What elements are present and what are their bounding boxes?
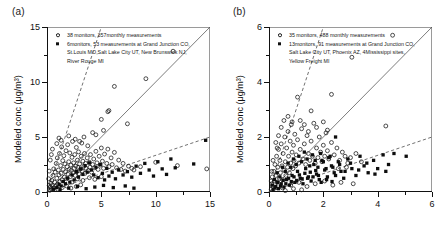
data-point <box>47 177 51 181</box>
data-point <box>304 167 307 170</box>
data-point <box>313 182 317 186</box>
panel-a-label: (a) <box>12 6 25 17</box>
data-point <box>85 156 89 160</box>
data-point <box>89 153 93 157</box>
data-point <box>88 161 91 164</box>
data-point <box>342 177 345 180</box>
data-point <box>73 178 76 181</box>
data-point <box>384 170 387 173</box>
panel-b-y-axis-title: Modeled conc (μg/m³) <box>235 75 245 163</box>
data-point <box>292 187 296 191</box>
data-point <box>106 110 110 114</box>
y-tick-label: 5 <box>35 132 40 142</box>
x-tick-major <box>378 192 379 197</box>
data-point <box>152 174 155 177</box>
data-point <box>68 151 72 155</box>
data-point <box>373 172 376 175</box>
data-point <box>311 153 314 156</box>
data-point <box>286 114 290 118</box>
data-point <box>358 155 361 158</box>
data-point <box>290 180 293 183</box>
data-point <box>275 154 279 158</box>
data-point <box>74 146 78 150</box>
data-point <box>124 184 127 187</box>
data-point <box>281 179 284 182</box>
y-tick-minor <box>44 110 47 111</box>
data-point <box>279 142 283 146</box>
data-point <box>126 170 129 173</box>
data-point <box>55 142 59 146</box>
data-point <box>109 156 113 160</box>
data-point <box>83 164 86 167</box>
x-tick-minor <box>183 192 184 195</box>
data-point <box>321 143 325 147</box>
data-point <box>387 163 390 166</box>
data-point <box>66 143 70 147</box>
data-point <box>79 183 83 187</box>
data-point <box>81 173 84 176</box>
data-point <box>305 134 309 138</box>
data-point <box>333 171 336 174</box>
data-point <box>302 142 306 146</box>
filled-square-icon <box>56 42 59 45</box>
data-point <box>112 84 116 88</box>
data-point <box>298 119 302 123</box>
data-point <box>94 149 98 153</box>
data-point <box>297 155 300 158</box>
data-point <box>283 189 287 193</box>
data-point <box>91 131 95 135</box>
data-point <box>130 176 133 179</box>
data-point <box>86 171 89 174</box>
x-tick-minor <box>296 192 297 195</box>
data-point <box>156 160 159 163</box>
data-point <box>100 159 104 163</box>
data-point <box>87 176 91 180</box>
data-point <box>323 154 327 158</box>
data-point <box>349 161 352 164</box>
y-tick-minor <box>266 110 269 111</box>
data-point <box>296 170 299 173</box>
legend-entry-open-b: 35 monitors, 488 monthly measurements <box>276 31 415 40</box>
data-point <box>96 176 99 179</box>
data-point <box>330 92 334 96</box>
data-point <box>300 188 304 192</box>
data-point <box>75 170 78 173</box>
data-point <box>287 177 290 180</box>
data-point <box>114 177 117 180</box>
data-point <box>49 153 53 157</box>
data-point <box>339 170 342 173</box>
data-point <box>340 150 344 154</box>
x-tick-major <box>432 192 433 197</box>
y-tick-label: 0 <box>257 187 262 197</box>
data-point <box>350 167 353 170</box>
data-point <box>301 182 304 185</box>
y-tick-label: 0 <box>35 187 40 197</box>
data-point <box>66 172 70 176</box>
data-point <box>288 139 292 143</box>
data-point <box>66 177 69 180</box>
data-point <box>56 168 60 172</box>
data-point <box>134 165 137 168</box>
data-point <box>325 178 328 181</box>
data-point <box>287 154 291 158</box>
data-point <box>300 160 303 163</box>
data-point <box>112 150 116 154</box>
data-point <box>288 183 291 186</box>
panel-b-legend: 35 monitors, 488 monthly measurements 13… <box>276 31 415 65</box>
data-point <box>121 161 125 165</box>
data-point <box>139 165 143 169</box>
data-point <box>204 139 207 142</box>
data-point <box>315 146 319 150</box>
data-point <box>79 167 82 170</box>
data-point <box>282 119 286 123</box>
legend-filled-label-b-l3: Yellow Freight MI <box>276 57 415 66</box>
data-point <box>359 160 363 164</box>
data-point <box>276 181 279 184</box>
data-point <box>292 143 296 147</box>
panel-a-y-axis-title: Modeled conc (μg/m³) <box>13 75 23 163</box>
data-point <box>121 173 124 176</box>
data-point <box>346 157 349 160</box>
data-point <box>282 185 285 188</box>
data-point <box>76 185 79 188</box>
data-point <box>367 171 370 174</box>
